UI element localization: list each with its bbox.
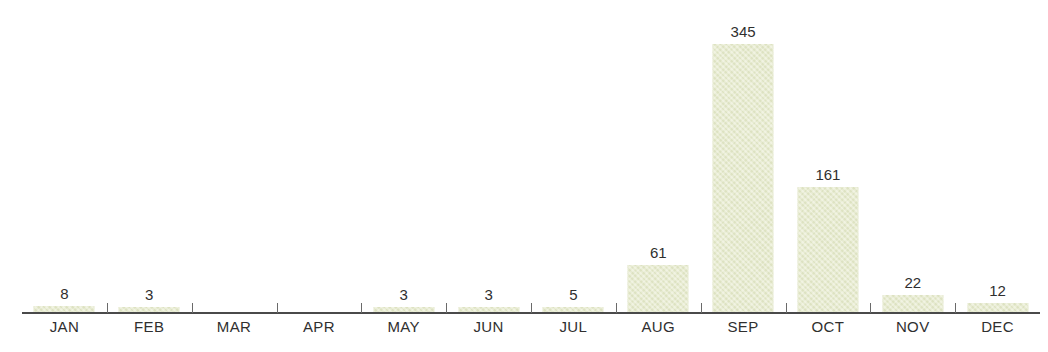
- bar-nov[interactable]: [882, 295, 943, 312]
- bar-value-label-feb: 3: [145, 287, 153, 302]
- bar-sep[interactable]: [713, 44, 774, 312]
- x-axis-label-oct: OCT: [786, 318, 871, 335]
- bar-group[interactable]: 5: [531, 0, 616, 312]
- bar-jan[interactable]: [34, 306, 95, 312]
- bar-value-label-sep: 345: [731, 24, 756, 39]
- bar-group[interactable]: 22: [870, 0, 955, 312]
- bar-group[interactable]: 8: [22, 0, 107, 312]
- bar-aug[interactable]: [628, 265, 689, 312]
- bar-feb[interactable]: [119, 307, 180, 312]
- bar-jun[interactable]: [458, 307, 519, 312]
- bar-jul[interactable]: [543, 307, 604, 312]
- x-axis-label-may: MAY: [361, 318, 446, 335]
- x-axis-label-feb: FEB: [107, 318, 192, 335]
- x-axis-label-dec: DEC: [955, 318, 1040, 335]
- bar-group[interactable]: [277, 0, 362, 312]
- bar-oct[interactable]: [797, 187, 858, 312]
- bar-value-label-aug: 61: [650, 245, 667, 260]
- x-axis-label-jan: JAN: [22, 318, 107, 335]
- bar-value-label-dec: 12: [989, 283, 1006, 298]
- bar-group[interactable]: 345: [701, 0, 786, 312]
- bar-group[interactable]: 161: [786, 0, 871, 312]
- x-axis-label-jul: JUL: [531, 318, 616, 335]
- x-axis-label-sep: SEP: [701, 318, 786, 335]
- bar-value-label-jan: 8: [60, 286, 68, 301]
- bar-group[interactable]: 61: [616, 0, 701, 312]
- bar-group[interactable]: [192, 0, 277, 312]
- x-axis-label-nov: NOV: [870, 318, 955, 335]
- bar-value-label-jun: 3: [484, 287, 492, 302]
- x-axis-label-jun: JUN: [446, 318, 531, 335]
- bar-dec[interactable]: [967, 303, 1028, 312]
- bar-group[interactable]: 3: [446, 0, 531, 312]
- bar-group[interactable]: 3: [361, 0, 446, 312]
- bar-value-label-may: 3: [400, 287, 408, 302]
- x-axis-label-aug: AUG: [616, 318, 701, 335]
- bar-value-label-oct: 161: [815, 167, 840, 182]
- bar-chart: 8JAN3FEBMARAPR3MAY3JUN5JUL61AUG345SEP161…: [0, 0, 1048, 352]
- bar-group[interactable]: 12: [955, 0, 1040, 312]
- x-axis-label-mar: MAR: [192, 318, 277, 335]
- bar-value-label-nov: 22: [904, 275, 921, 290]
- x-axis-label-apr: APR: [277, 318, 362, 335]
- bar-may[interactable]: [373, 307, 434, 312]
- bar-group[interactable]: 3: [107, 0, 192, 312]
- bar-value-label-jul: 5: [569, 287, 577, 302]
